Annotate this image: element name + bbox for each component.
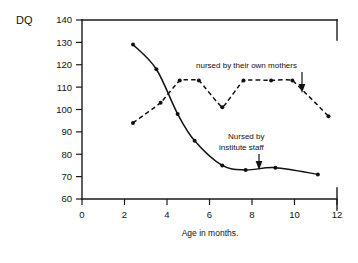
data-point-marker <box>244 168 248 172</box>
data-point-marker <box>178 78 182 82</box>
x-tick-label: 0 <box>79 209 84 220</box>
data-point-marker <box>242 78 246 82</box>
data-point-marker <box>327 114 331 118</box>
y-tick-label: 130 <box>56 37 72 48</box>
data-point-marker <box>269 78 273 82</box>
data-point-marker <box>131 121 135 125</box>
y-tick-label: 70 <box>61 171 72 182</box>
y-axis-title: DQ <box>16 14 33 26</box>
data-point-marker <box>220 163 224 167</box>
x-axis-ticks: 024681012 <box>79 199 342 220</box>
y-tick-label: 100 <box>56 104 72 115</box>
data-point-marker <box>290 78 294 82</box>
data-point-marker <box>273 166 277 170</box>
x-axis-title: Age in months. <box>182 228 239 238</box>
x-tick-label: 8 <box>249 209 254 220</box>
x-tick-label: 4 <box>164 209 169 220</box>
y-tick-label: 140 <box>56 14 72 25</box>
y-axis-ticks: 60708090100110120130140 <box>56 14 82 204</box>
data-point-marker <box>159 101 163 105</box>
x-tick-label: 12 <box>332 209 343 220</box>
annotation-institute-staff-label-line1: Nursed by <box>228 132 264 141</box>
x-tick-label: 10 <box>289 209 300 220</box>
series-own-mothers-line <box>133 80 329 123</box>
annotation-institute-staff-label-line2: institute staff <box>219 143 265 152</box>
data-point-marker <box>131 43 135 47</box>
y-tick-label: 60 <box>61 193 72 204</box>
dq-line-chart: DQ 60708090100110120130140 024681012 nur… <box>0 0 358 263</box>
annotation-own-mothers-label: nursed by their own mothers <box>196 61 297 70</box>
data-point-marker <box>193 139 197 143</box>
y-tick-label: 120 <box>56 59 72 70</box>
data-point-marker <box>176 112 180 116</box>
y-tick-label: 80 <box>61 149 72 160</box>
chart-container: DQ 60708090100110120130140 024681012 nur… <box>0 0 358 263</box>
y-tick-label: 90 <box>61 126 72 137</box>
x-tick-label: 2 <box>122 209 127 220</box>
x-tick-label: 6 <box>207 209 212 220</box>
data-point-marker <box>220 105 224 109</box>
data-point-marker <box>154 67 158 71</box>
y-tick-label: 110 <box>57 82 72 93</box>
data-point-marker <box>197 78 201 82</box>
data-point-marker <box>316 172 320 176</box>
